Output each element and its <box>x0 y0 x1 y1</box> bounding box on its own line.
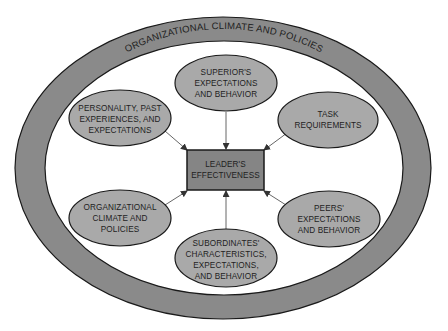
center-line-2: EFFECTIVENESS <box>191 171 260 180</box>
factor-superior-line-3: AND BEHAVIOR <box>195 90 257 99</box>
arrow-task <box>264 133 287 150</box>
factor-subordinates: SUBORDINATES' CHARACTERISTICS, EXPECTATI… <box>175 229 277 287</box>
factor-org-climate: ORGANIZATIONAL CLIMATE AND POLICIES <box>69 190 171 246</box>
factor-task-line-2: REQUIREMENTS <box>294 121 362 130</box>
arrow-org-climate <box>165 191 187 205</box>
factor-subordinates-line-4: AND BEHAVIOR <box>195 272 257 281</box>
arrow-peers <box>264 191 286 205</box>
factor-personality: PERSONALITY, PAST EXPERIENCES, AND EXPEC… <box>69 90 171 146</box>
arrow-personality <box>165 131 187 150</box>
factor-superior-line-1: SUPERIOR'S <box>201 68 252 77</box>
factor-personality-line-2: EXPERIENCES, AND <box>79 115 160 124</box>
factor-peers-line-1: PEERS' <box>314 204 344 213</box>
factor-peers-line-3: AND BEHAVIOR <box>298 226 360 235</box>
factor-task: TASK REQUIREMENTS <box>278 92 378 148</box>
factor-superior: SUPERIOR'S EXPECTATIONS AND BEHAVIOR <box>175 55 277 111</box>
factor-org-climate-line-3: POLICIES <box>101 225 140 234</box>
leader-effectiveness-box: LEADER'S EFFECTIVENESS <box>187 150 264 190</box>
factor-subordinates-line-3: EXPECTATIONS, <box>193 261 259 270</box>
factor-org-climate-line-1: ORGANIZATIONAL <box>83 203 156 212</box>
factor-personality-line-1: PERSONALITY, PAST <box>78 104 161 113</box>
factor-superior-line-2: EXPECTATIONS <box>194 79 258 88</box>
factor-personality-line-3: EXPECTATIONS <box>88 126 152 135</box>
factor-peers: PEERS' EXPECTATIONS AND BEHAVIOR <box>278 191 380 247</box>
factor-subordinates-line-2: CHARACTERISTICS, <box>185 250 266 259</box>
center-line-1: LEADER'S <box>205 160 246 169</box>
factor-subordinates-line-1: SUBORDINATES' <box>193 239 260 248</box>
factor-org-climate-line-2: CLIMATE AND <box>92 214 147 223</box>
factor-task-line-1: TASK <box>317 110 339 119</box>
leader-effectiveness-diagram: ORGANIZATIONAL CLIMATE AND POLICIES SUPE… <box>0 0 448 331</box>
factor-peers-line-2: EXPECTATIONS <box>297 215 361 224</box>
